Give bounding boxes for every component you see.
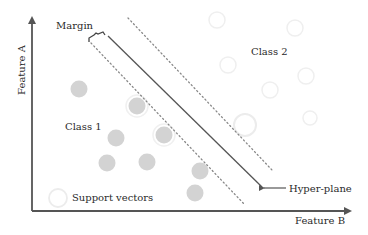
class1-label: Class 1 [65,121,102,132]
svm-diagram: Feature A Feature B Margin Class 1 Class… [0,0,368,235]
class2-point [303,111,317,125]
x-axis-label: Feature B [295,215,345,226]
class2-points [209,12,317,125]
support-vectors-legend-icon [49,189,67,207]
class2-point [298,68,314,84]
class1-point [192,163,209,180]
class1-point [187,185,204,202]
class1-point [129,98,146,115]
class1-point [71,81,88,98]
class1-point [139,154,156,171]
support-vectors-label: Support vectors [72,192,153,203]
class1-point [108,130,125,147]
class1-points [71,81,209,202]
margin-line-lower [91,43,245,205]
class2-label: Class 2 [251,46,288,57]
y-axis-label: Feature A [16,44,27,95]
class2-point [287,20,303,36]
margin-bracket [89,32,105,42]
margin-line-upper [128,18,272,170]
hyperplane-label: Hyper-plane [289,183,352,194]
class2-point [262,82,278,98]
class1-point [156,127,173,144]
class1-point [99,155,116,172]
class2-point [209,12,225,28]
class2-point [220,57,236,73]
support-vector-ring [234,114,256,136]
margin-label: Margin [56,20,94,31]
